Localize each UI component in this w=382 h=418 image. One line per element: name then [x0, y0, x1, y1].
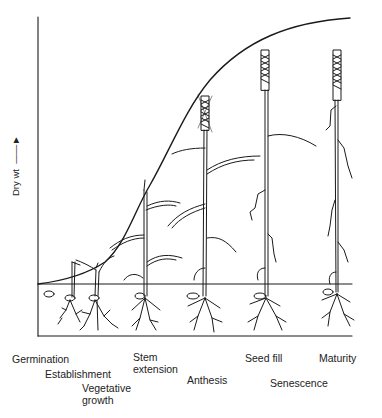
stage-label-germination: Germination	[12, 353, 69, 365]
dry-weight-curve	[38, 18, 350, 284]
stage-label-vegetative: Vegetative growth	[82, 382, 131, 406]
stage-label-maturity: Maturity	[319, 352, 356, 364]
plant-seed-fill	[248, 50, 316, 330]
stage-label-stem-line2: extension	[133, 363, 178, 375]
plant-germination	[44, 262, 82, 324]
stage-label-anthesis: Anthesis	[187, 374, 227, 386]
plant-maturity	[322, 50, 354, 326]
y-axis-label-text: Dry wt	[10, 169, 21, 196]
plant-anthesis	[168, 95, 260, 332]
up-arrow-icon: ——►	[10, 135, 21, 166]
stage-label-vegetative-line1: Vegetative	[82, 382, 131, 394]
stage-label-stem-line1: Stem	[133, 351, 178, 363]
y-axis-label: Dry wt ——►	[10, 135, 21, 196]
stage-label-establishment: Establishment	[45, 368, 111, 380]
stage-label-senescence: Senescence	[270, 377, 328, 389]
plant-stem-extension	[110, 180, 182, 330]
stage-label-vegetative-line2: growth	[82, 394, 131, 406]
stage-label-seed-fill: Seed fill	[245, 352, 282, 364]
stage-label-stem-extension: Stem extension	[133, 351, 178, 375]
